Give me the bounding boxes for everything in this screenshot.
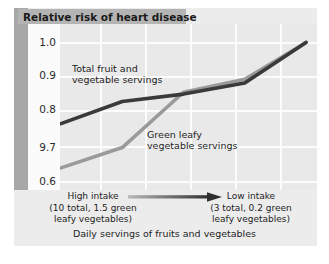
axis-shadow-strip (14, 8, 28, 190)
series-lines (60, 24, 317, 190)
y-tick-0-7: 9.7 (26, 142, 56, 153)
y-tick-0-6: 0.6 (26, 176, 56, 187)
arrow-right-icon (128, 191, 222, 203)
series-label-total-line2: vegetable servings (72, 74, 162, 86)
y-tick-0-9: 0.9 (26, 70, 56, 81)
y-tick-0-8: 0.8 (26, 104, 56, 115)
annotation-low-intake-sub1: (3 total, 0.2 green (202, 203, 300, 214)
series-label-green-line1: Green leafy (147, 129, 202, 141)
plot-area: Total fruit and vegetable servings Green… (60, 24, 317, 190)
series-label-green-line2: vegetable servings (147, 140, 237, 152)
annotation-low-intake-title: Low intake (213, 191, 289, 202)
annotation-low-intake-sub2: leafy vegetables) (202, 214, 300, 225)
y-tick-1-0: 1.0 (26, 37, 56, 48)
annotation-high-intake-sub2: leafy vegetables) (44, 214, 142, 225)
figure-relative-risk-heart-disease: Relative risk of heart disease 1.0 0.9 0… (0, 0, 329, 264)
annotation-high-intake-title: High intake (55, 191, 131, 202)
annotation-high-intake-sub1: (10 total, 1.5 green (44, 203, 142, 214)
page-title: Relative risk of heart disease (23, 10, 191, 24)
x-axis-caption: Daily servings of fruits and vegetables (0, 228, 329, 239)
series-label-total-line1: Total fruit and (72, 63, 138, 75)
